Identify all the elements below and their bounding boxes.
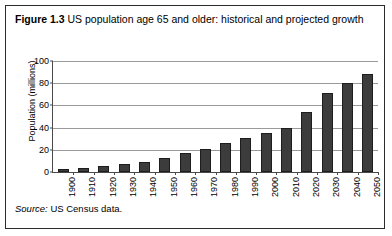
y-axis-tick-label: 60 <box>39 100 49 110</box>
x-axis-tick-mark <box>337 172 338 175</box>
x-axis-tick-label: 1950 <box>169 177 179 197</box>
x-axis-tick-mark <box>256 172 257 175</box>
x-axis-tick-mark <box>276 172 277 175</box>
source-line: Source: US Census data. <box>15 203 122 214</box>
figure-frame: Figure 1.3 US population age 65 and olde… <box>5 5 385 229</box>
figure-title: US population age 65 and older: historic… <box>68 13 364 25</box>
bar <box>322 93 333 172</box>
x-axis-tick-label: 1940 <box>148 177 158 197</box>
x-axis-tick-mark <box>195 172 196 175</box>
x-axis-tick-label: 2010 <box>291 177 301 197</box>
x-axis-tick-mark <box>94 172 95 175</box>
x-axis-tick-mark <box>134 172 135 175</box>
x-axis-tick-label: 2000 <box>270 177 280 197</box>
x-axis-tick-mark <box>114 172 115 175</box>
bars-layer <box>53 61 378 172</box>
bar <box>159 158 170 172</box>
bar <box>261 133 272 172</box>
x-axis-tick-mark <box>175 172 176 175</box>
y-axis-tick-label: 40 <box>39 123 49 133</box>
x-axis-tick-label: 1970 <box>209 177 219 197</box>
plot-area: 020406080100 190019101920193019401950196… <box>52 61 378 173</box>
source-text: US Census data. <box>50 203 122 214</box>
figure-caption: Figure 1.3 US population age 65 and olde… <box>15 13 375 27</box>
x-axis-tick-label: 2030 <box>331 177 341 197</box>
x-axis-tick-mark <box>358 172 359 175</box>
x-axis-tick-label: 1980 <box>230 177 240 197</box>
x-axis-tick-label: 1990 <box>250 177 260 197</box>
y-axis-tick-label: 0 <box>44 167 49 177</box>
x-axis-tick-label: 1920 <box>108 177 118 197</box>
bar <box>200 149 211 172</box>
x-axis-tick-label: 2050 <box>372 177 382 197</box>
x-axis-tick-mark <box>297 172 298 175</box>
bar <box>240 138 251 172</box>
bar <box>139 162 150 172</box>
x-axis-tick-label: 1960 <box>189 177 199 197</box>
bar <box>281 128 292 172</box>
y-axis-tick-label: 100 <box>34 56 49 66</box>
x-axis-tick-mark <box>317 172 318 175</box>
bar <box>58 169 69 172</box>
bar <box>220 143 231 172</box>
x-axis-tick-label: 1930 <box>128 177 138 197</box>
bar <box>98 166 109 172</box>
x-axis-tick-label: 1910 <box>87 177 97 197</box>
x-axis-tick-mark <box>216 172 217 175</box>
x-axis-tick-mark <box>155 172 156 175</box>
y-axis-tick-label: 20 <box>39 145 49 155</box>
bar <box>119 164 130 172</box>
bar <box>301 112 312 172</box>
x-axis-tick-label: 2040 <box>352 177 362 197</box>
bar <box>180 153 191 172</box>
bar <box>362 74 373 172</box>
x-axis-tick-label: 2020 <box>311 177 321 197</box>
chart-region: Population (millions) 020406080100 19001… <box>6 46 384 206</box>
x-axis-tick-label: 1900 <box>67 177 77 197</box>
y-axis-tick-label: 80 <box>39 78 49 88</box>
source-word: Source: <box>15 203 48 214</box>
bar <box>342 83 353 172</box>
x-axis-tick-mark <box>378 172 379 175</box>
figure-label: Figure 1.3 <box>15 13 65 25</box>
x-axis-tick-mark <box>73 172 74 175</box>
bar <box>78 168 89 172</box>
x-axis-tick-mark <box>236 172 237 175</box>
